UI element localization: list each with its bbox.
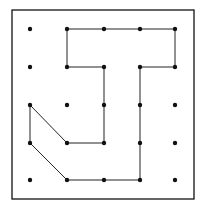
grid-dot [28, 27, 32, 31]
grid-dot [65, 178, 69, 182]
grid-dot [138, 103, 142, 107]
geoboard-diagram [0, 0, 204, 211]
grid-dot [65, 65, 69, 69]
grid-dot [102, 141, 106, 145]
grid-dot [102, 27, 106, 31]
grid-dot [173, 178, 177, 182]
grid-dot [173, 103, 177, 107]
grid-dot [173, 27, 177, 31]
grid-dot [173, 65, 177, 69]
dot-grid [28, 27, 177, 182]
grid-dot [28, 178, 32, 182]
grid-dot [138, 178, 142, 182]
grid-dot [28, 103, 32, 107]
grid-dot [65, 141, 69, 145]
grid-dot [65, 27, 69, 31]
grid-dot [28, 141, 32, 145]
grid-dot [173, 141, 177, 145]
grid-dot [65, 103, 69, 107]
grid-dot [138, 65, 142, 69]
grid-dot [28, 65, 32, 69]
grid-dot [138, 141, 142, 145]
grid-dot [138, 27, 142, 31]
grid-dot [102, 103, 106, 107]
grid-dot [102, 178, 106, 182]
grid-dot [102, 65, 106, 69]
